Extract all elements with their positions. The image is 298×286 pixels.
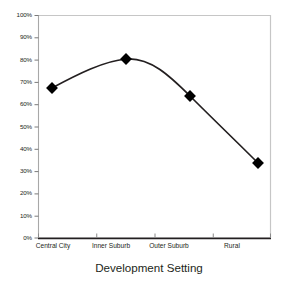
chart-container: 100% 90% 80% 70% 60% 50% 40% 30% 20% 10%… [0,0,298,286]
data-markers [46,53,264,169]
y-tick-label-80: 80% [4,57,32,63]
y-axis-ticks [35,16,39,239]
x-axis-title: Development Setting [0,262,298,274]
y-tick-label-20: 20% [4,190,32,196]
data-point-central-city [46,82,58,94]
y-tick-label-50: 50% [4,124,32,130]
y-tick-label-60: 60% [4,101,32,107]
x-axis-ticks [39,234,271,239]
x-tick-label-inner-suburb: Inner Suburb [86,243,136,250]
y-tick-label-70: 70% [4,79,32,85]
y-tick-label-0: 0% [4,235,32,241]
y-tick-label-10: 10% [4,213,32,219]
data-point-inner-suburb [120,53,132,65]
y-tick-label-40: 40% [4,146,32,152]
data-line-series-1 [52,59,258,163]
y-tick-label-90: 90% [4,34,32,40]
x-tick-label-outer-suburb: Outer Suburb [144,243,194,250]
x-tick-label-central-city: Central City [28,243,78,250]
y-tick-label-100: 100% [4,12,32,18]
x-tick-label-rural: Rural [207,243,257,250]
y-tick-label-30: 30% [4,168,32,174]
